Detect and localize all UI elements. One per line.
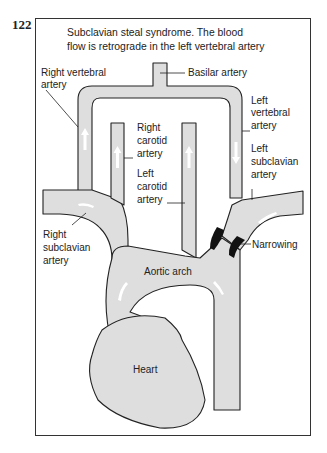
label-left-vertebral-3: artery bbox=[251, 120, 277, 131]
label-left-vertebral-1: Left bbox=[251, 95, 268, 106]
label-left-subclavian-2: subclavian bbox=[251, 156, 298, 167]
label-right-carotid-1: Right bbox=[137, 122, 161, 133]
label-aortic-arch: Aortic arch bbox=[144, 266, 192, 277]
label-right-subclavian-3: artery bbox=[43, 255, 69, 266]
label-left-subclavian-3: artery bbox=[251, 169, 277, 180]
figure-title-line1: Subclavian steal syndrome. The blood bbox=[67, 27, 243, 38]
subclavian-steal-diagram: Subclavian steal syndrome. The blood flo… bbox=[0, 0, 327, 453]
label-left-carotid-1: Left bbox=[137, 168, 154, 179]
label-right-vertebral-1: Right vertebral bbox=[41, 67, 106, 78]
label-heart: Heart bbox=[133, 364, 158, 375]
label-left-carotid-2: carotid bbox=[137, 181, 167, 192]
left-carotid-artery-vessel bbox=[182, 123, 196, 258]
label-basilar-artery: Basilar artery bbox=[188, 67, 247, 78]
label-right-carotid-3: artery bbox=[137, 148, 163, 159]
label-right-subclavian-1: Right bbox=[43, 229, 67, 240]
label-left-subclavian-1: Left bbox=[251, 143, 268, 154]
label-left-vertebral-2: vertebral bbox=[251, 107, 290, 118]
figure-title-line2: flow is retrograde in the left vertebral… bbox=[67, 41, 265, 52]
label-narrowing: Narrowing bbox=[252, 239, 298, 250]
label-right-vertebral-2: artery bbox=[41, 79, 67, 90]
label-left-carotid-3: artery bbox=[137, 194, 163, 205]
label-right-subclavian-2: subclavian bbox=[43, 242, 90, 253]
label-right-carotid-2: carotid bbox=[137, 135, 167, 146]
